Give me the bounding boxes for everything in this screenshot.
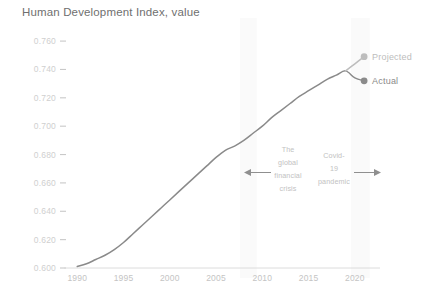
y-tick-label: 0.700 [34,121,56,131]
x-axis: 1990199520002005201020152020 [64,268,380,283]
y-tick-label: 0.620 [34,235,56,245]
x-tick-label: 2010 [252,273,272,283]
endpoint-label-projected: Projected [372,52,412,62]
y-tick-label: 0.640 [34,206,56,216]
endpoint-dot-actual [361,77,368,84]
x-tick-label: 2020 [345,273,365,283]
annot-covid-line-1: 19 [330,164,338,173]
annot-covid-arrow-head [374,169,381,176]
x-tick-label: 1995 [114,273,134,283]
endpoint-dot-projected [361,53,368,60]
annot-covid-line-0: Covid- [323,151,345,160]
y-tick-label: 0.660 [34,178,56,188]
chart-plot-area: 0.7600.7400.7200.7000.6800.6600.6400.620… [0,0,448,305]
annot-gfc-line-0: The [282,145,295,154]
annotation-covid-pandemic: Covid- 19 pandemic [318,151,381,186]
y-tick-label: 0.740 [34,64,56,74]
chart-container: Human Development Index, value 0.7600.74… [0,0,448,305]
band-global-financial-crisis [240,18,257,278]
series-line-actual [77,71,364,267]
y-tick-label: 0.600 [34,263,56,273]
y-tick-label: 0.760 [34,36,56,46]
endpoint-label-actual: Actual [372,76,398,86]
y-axis: 0.7600.7400.7200.7000.6800.6600.6400.620… [34,36,66,273]
y-tick-label: 0.680 [34,150,56,160]
y-tick-label: 0.720 [34,93,56,103]
x-tick-label: 1990 [67,273,87,283]
annot-gfc-line-2: financial [274,171,302,180]
annot-gfc-line-1: global [278,158,298,167]
x-tick-label: 2015 [299,273,319,283]
x-tick-label: 2005 [206,273,226,283]
x-tick-label: 2000 [160,273,180,283]
event-bands [240,18,370,278]
annot-covid-line-2: pandemic [318,177,350,186]
annot-gfc-line-3: crisis [280,184,297,193]
